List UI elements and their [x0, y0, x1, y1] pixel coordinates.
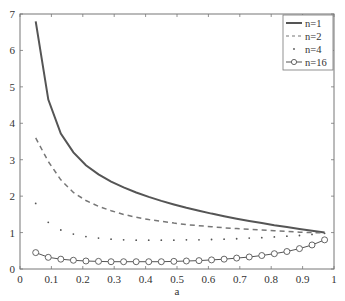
x-tick-label: 1 — [331, 273, 337, 285]
x-tick-label: 0.7 — [233, 273, 247, 285]
legend-label: n=1 — [305, 18, 321, 29]
y-tick-label: 3 — [10, 154, 16, 166]
x-tick-label: 0.5 — [170, 273, 184, 285]
legend-label: n=2 — [305, 31, 321, 42]
x-tick-label: 0.8 — [264, 273, 278, 285]
y-tick-label: 4 — [10, 117, 16, 129]
x-tick-label: 0 — [17, 273, 23, 285]
x-axis-label: a — [175, 285, 180, 297]
legend-label: n=16 — [305, 57, 327, 68]
y-tick-label: 5 — [10, 81, 16, 93]
x-tick-label: 0.2 — [76, 273, 90, 285]
legend: n=1n=2n=4n=16 — [283, 15, 333, 70]
x-tick-label: 0.4 — [139, 273, 153, 285]
y-tick-label: 7 — [10, 8, 16, 20]
x-tick-label: 0.1 — [45, 273, 59, 285]
y-tick-label: 0 — [10, 263, 16, 275]
x-tick-label: 0.6 — [202, 273, 216, 285]
y-tick-label: 2 — [10, 190, 16, 202]
legend-label: n=4 — [305, 44, 322, 55]
line-chart: 00.10.20.30.40.50.60.70.80.9101234567 a … — [0, 0, 345, 301]
x-tick-label: 0.3 — [107, 273, 121, 285]
y-tick-label: 6 — [10, 44, 16, 56]
x-tick-label: 0.9 — [296, 273, 310, 285]
y-tick-label: 1 — [10, 227, 16, 239]
